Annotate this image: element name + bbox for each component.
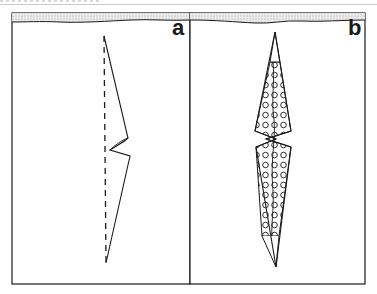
panel-a-frame	[12, 13, 190, 284]
panel-a	[12, 13, 190, 284]
panel-label-a: a	[172, 17, 184, 39]
panel-b	[190, 13, 365, 284]
panel-label-b: b	[348, 17, 361, 39]
figure-diagram	[0, 0, 377, 294]
